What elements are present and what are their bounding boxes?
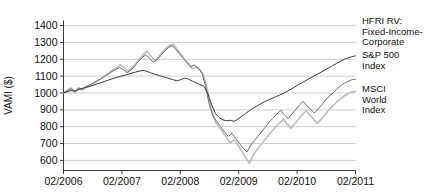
x-tick-label: 02/2007 bbox=[103, 175, 141, 187]
legend-entry-label: Index bbox=[362, 104, 385, 115]
y-tick-label: 1400 bbox=[34, 19, 58, 31]
legend-entry-label: Index bbox=[362, 60, 385, 71]
x-tick-label: 02/2006 bbox=[45, 175, 83, 187]
x-axis: 02/200602/200702/200802/200902/201002/20… bbox=[45, 171, 375, 187]
x-tick-label: 02/2010 bbox=[278, 175, 316, 187]
y-tick-label: 1300 bbox=[34, 36, 58, 48]
chart-figure: 60070080090010001100120013001400 02/2006… bbox=[0, 0, 438, 195]
legend-entry-label: MSCI bbox=[362, 83, 386, 94]
y-axis: 60070080090010001100120013001400 bbox=[34, 19, 63, 170]
chart-legend: HFRI RV:Fixed-Income-CorporateS&P 500Ind… bbox=[362, 15, 423, 115]
y-tick-label: 800 bbox=[40, 120, 58, 132]
legend-entry-label: HFRI RV: bbox=[362, 15, 402, 26]
y-axis-label: VAMI ($) bbox=[3, 76, 14, 115]
line-chart: 60070080090010001100120013001400 02/2006… bbox=[0, 0, 438, 195]
y-tick-label: 1200 bbox=[34, 53, 58, 65]
series-line bbox=[64, 56, 356, 121]
x-tick-label: 02/2011 bbox=[337, 175, 374, 187]
y-tick-label: 1100 bbox=[35, 70, 58, 82]
legend-entry-label: Fixed-Income- bbox=[362, 26, 423, 37]
x-tick-label: 02/2009 bbox=[220, 175, 258, 187]
y-tick-label: 700 bbox=[40, 137, 58, 149]
y-tick-label: 900 bbox=[40, 103, 58, 115]
legend-entry-label: S&P 500 bbox=[362, 49, 399, 60]
legend-entry-label: World bbox=[362, 94, 387, 105]
gridlines bbox=[64, 26, 356, 161]
legend-entry-label: Corporate bbox=[362, 36, 404, 47]
data-series bbox=[64, 44, 356, 163]
y-tick-label: 1000 bbox=[34, 87, 58, 99]
y-tick-label: 600 bbox=[40, 154, 58, 166]
x-tick-label: 02/2008 bbox=[161, 175, 199, 187]
